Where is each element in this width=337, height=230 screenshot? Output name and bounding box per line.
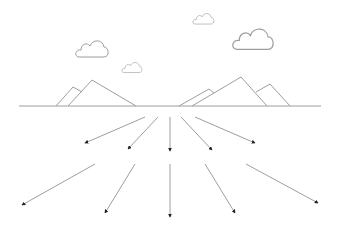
arrow-9 xyxy=(205,164,235,213)
arrow-10 xyxy=(246,164,318,203)
clouds-group xyxy=(76,14,273,73)
mountains-group xyxy=(56,77,290,106)
cloud-left-small-icon xyxy=(122,63,142,73)
cloud-right-large-icon xyxy=(233,29,273,49)
landscape-illustration xyxy=(0,0,337,230)
cloud-left-large-icon xyxy=(76,41,108,57)
mountain-right-front xyxy=(192,77,267,106)
mountain-right-small xyxy=(256,84,290,106)
mountain-left-front xyxy=(68,80,136,106)
arrow-7 xyxy=(105,164,135,213)
arrow-5 xyxy=(195,117,255,143)
mountain-left-back xyxy=(56,87,82,106)
arrow-6 xyxy=(22,164,95,205)
radiating-arrows-group xyxy=(22,117,318,217)
arrow-1 xyxy=(85,117,145,143)
cloud-top-small-icon xyxy=(193,14,214,24)
arrow-2 xyxy=(128,117,158,149)
